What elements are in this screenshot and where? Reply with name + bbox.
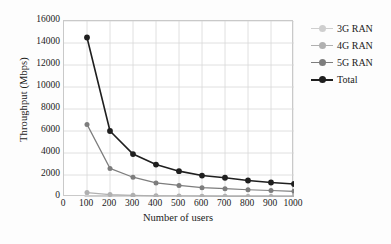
legend-item-total[interactable]: Total [311,71,391,88]
legend-marker-icon [311,58,333,68]
y-tick-label: 6000 [16,125,60,135]
legend: 3G RAN4G RAN5G RANTotal [311,20,391,88]
series-marker [246,194,251,197]
legend-label: 3G RAN [337,23,373,34]
series-marker [107,128,113,134]
y-tick-label: 16000 [16,15,60,25]
series-marker [291,181,294,187]
series-marker [108,192,113,197]
series-marker [269,188,274,193]
series-marker [246,187,251,192]
series-marker [200,185,205,190]
series-marker [268,180,274,186]
y-tick-label: 2000 [16,169,60,179]
series-marker [130,151,136,157]
series-marker [176,168,182,174]
legend-marker-icon [311,24,333,34]
series-marker [269,194,274,197]
series-line [87,193,294,197]
series-marker [154,180,159,185]
legend-marker-icon [311,75,333,85]
legend-item-3g-ran[interactable]: 3G RAN [311,20,391,37]
series-marker [85,122,90,127]
chart-figure: Throughput (Mbps) 0200040006000800010000… [0,0,391,244]
legend-item-4g-ran[interactable]: 4G RAN [311,37,391,54]
y-tick-label: 12000 [16,59,60,69]
y-tick-label: 10000 [16,81,60,91]
series-line [87,38,294,185]
x-tick-label: 1000 [273,199,313,209]
y-tick-label: 8000 [16,103,60,113]
series-marker [222,175,228,181]
plot-area [63,20,293,196]
data-series-layer [64,21,294,197]
legend-marker-icon [311,41,333,51]
series-marker [292,194,295,197]
series-marker [177,194,182,197]
series-marker [245,178,251,184]
legend-label: 4G RAN [337,40,373,51]
legend-label: Total [337,74,357,85]
x-axis-title: Number of users [63,212,293,223]
y-tick-label: 4000 [16,147,60,157]
series-marker [131,193,136,197]
y-tick-label: 14000 [16,37,60,47]
series-marker [200,194,205,197]
series-marker [131,175,136,180]
legend-item-5g-ran[interactable]: 5G RAN [311,54,391,71]
series-marker [153,162,159,168]
series-marker [177,183,182,188]
series-marker [154,193,159,197]
series-marker [84,35,90,41]
series-marker [199,173,205,179]
series-marker [223,186,228,191]
legend-label: 5G RAN [337,57,373,68]
series-marker [108,166,113,171]
series-marker [292,189,295,194]
series-marker [85,190,90,195]
series-marker [223,194,228,197]
